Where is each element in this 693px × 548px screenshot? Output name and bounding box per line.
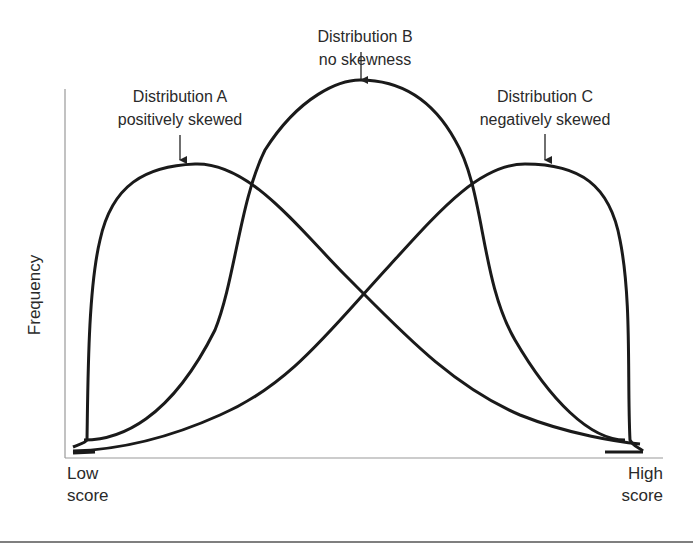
x-low-line2: score <box>67 485 109 507</box>
x-axis-low-label: Low score <box>67 463 109 507</box>
x-high-line2: score <box>621 485 663 507</box>
annotation-b-subtitle: no skewness <box>295 48 435 71</box>
curve-distribution-b <box>84 80 625 440</box>
annotation-a-subtitle: positively skewed <box>95 108 265 131</box>
annotation-distribution-c: Distribution C negatively skewed <box>460 85 630 131</box>
annotation-c-subtitle: negatively skewed <box>460 108 630 131</box>
x-axis-high-label: High score <box>621 463 663 507</box>
annotation-distribution-a: Distribution A positively skewed <box>95 85 265 131</box>
curve-distribution-a <box>73 164 640 447</box>
annotation-b-title: Distribution B <box>295 25 435 48</box>
x-low-line1: Low <box>67 463 109 485</box>
x-high-line1: High <box>621 463 663 485</box>
annotation-a-title: Distribution A <box>95 85 265 108</box>
annotation-c-title: Distribution C <box>460 85 630 108</box>
curve-tail-left <box>73 452 95 453</box>
y-axis-label: Frequency <box>25 255 45 335</box>
annotation-distribution-b: Distribution B no skewness <box>295 25 435 71</box>
